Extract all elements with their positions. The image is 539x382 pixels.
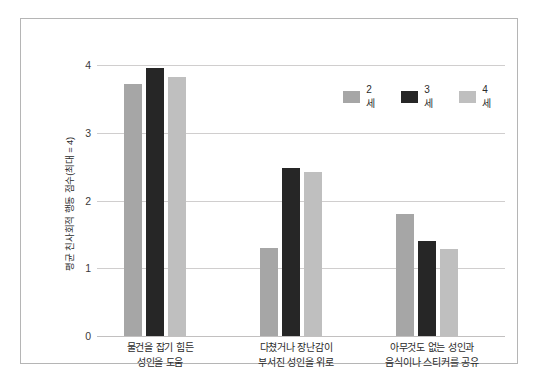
- legend-swatch-icon-2세: [343, 91, 360, 103]
- y-axis-title: 평균 친사회적 행동 점수(최대 = 4): [62, 0, 76, 104]
- chart-figure: 43210 평균 친사회적 행동 점수(최대 = 4) 물건을 잡기 힘든성인을…: [0, 0, 539, 382]
- figure-border: 43210 평균 친사회적 행동 점수(최대 = 4) 물건을 잡기 힘든성인을…: [20, 18, 518, 364]
- x-category-label-3: 아무것도 없는 성인과음식이나 스티커를 공유: [364, 341, 500, 370]
- x-category-label-line: 성인을 도움: [92, 356, 228, 371]
- bar-1-4세: [168, 77, 186, 336]
- bar-group-1: [124, 65, 186, 336]
- x-category-label-line: 아무것도 없는 성인과: [364, 341, 500, 356]
- x-category-label-2: 다쳤거나 장난감이부서진 성인을 위로: [228, 341, 364, 370]
- bar-1-3세: [146, 68, 164, 336]
- plot-area: [97, 65, 505, 336]
- bar-2-4세: [304, 172, 322, 336]
- bar-3-3세: [418, 241, 436, 336]
- bar-3-4세: [440, 249, 458, 336]
- legend-item-3세: 3세: [401, 84, 437, 110]
- x-category-label-line: 음식이나 스티커를 공유: [364, 356, 500, 371]
- x-category-label-1: 물건을 잡기 힘든성인을 도움: [92, 341, 228, 370]
- y-tick-label-0: 0: [69, 331, 91, 341]
- legend-item-2세: 2세: [343, 84, 379, 110]
- legend-label-4세: 4세: [482, 84, 495, 110]
- y-axis-title-text: 평균 친사회적 행동 점수(최대 = 4): [62, 104, 76, 304]
- x-category-label-line: 부서진 성인을 위로: [228, 356, 364, 371]
- legend-item-4세: 4세: [459, 84, 495, 110]
- x-category-label-line: 물건을 잡기 힘든: [92, 341, 228, 356]
- bar-1-2세: [124, 84, 142, 336]
- bar-2-3세: [282, 168, 300, 336]
- legend-swatch-icon-4세: [459, 91, 476, 103]
- bar-3-2세: [396, 214, 414, 336]
- legend-label-2세: 2세: [366, 84, 379, 110]
- bar-group-2: [260, 65, 322, 336]
- x-axis-category-labels: 물건을 잡기 힘든성인을 도움다쳤거나 장난감이부서진 성인을 위로아무것도 없…: [97, 341, 505, 381]
- chart-legend: 2세3세4세: [343, 89, 517, 105]
- x-category-label-line: 다쳤거나 장난감이: [228, 341, 364, 356]
- bar-2-2세: [260, 248, 278, 336]
- legend-label-3세: 3세: [424, 84, 437, 110]
- gridline-0: [97, 336, 505, 337]
- legend-swatch-icon-3세: [401, 91, 418, 103]
